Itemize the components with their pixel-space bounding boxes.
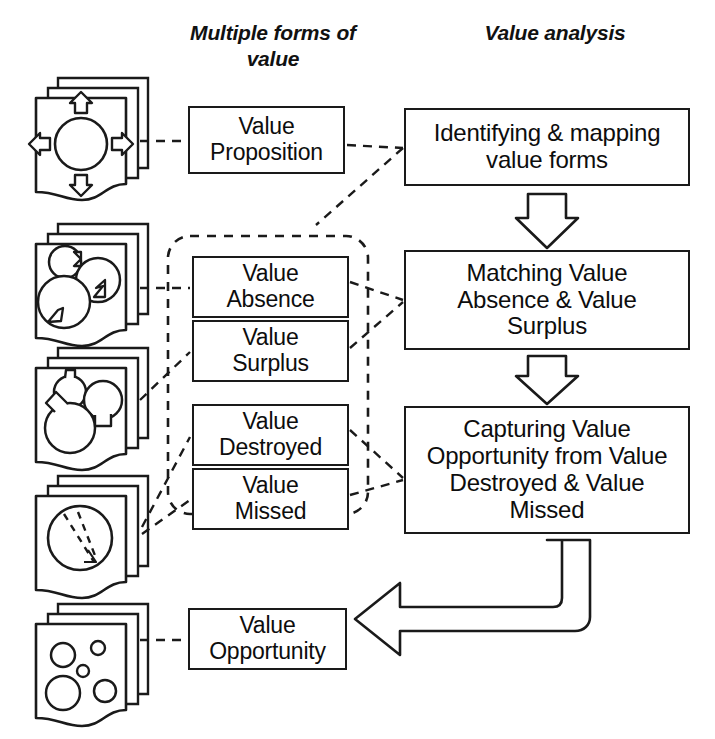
block-arrow-matching-to-capturing [516, 356, 578, 404]
node-value-destroyed[interactable]: Value Destroyed [192, 404, 349, 466]
node-identifying-mapping-label: Identifying & mapping value forms [434, 120, 661, 174]
node-value-surplus-label: Value Surplus [232, 325, 309, 377]
node-capturing-label: Capturing Value Opportunity from Value D… [427, 416, 668, 524]
connector-group [140, 141, 403, 640]
node-capturing-value-opportunity[interactable]: Capturing Value Opportunity from Value D… [404, 406, 690, 534]
icon-scattered-circles [36, 604, 148, 726]
diagram-canvas: Multiple forms of value Value analysis [0, 0, 715, 739]
connector-absence-matching [350, 282, 403, 300]
node-value-missed-label: Value Missed [235, 473, 307, 525]
node-identifying-mapping-value-forms[interactable]: Identifying & mapping value forms [404, 108, 690, 186]
node-value-destroyed-label: Value Destroyed [219, 409, 322, 461]
icon-dashed-split-circle [36, 476, 148, 598]
block-arrow-capturing-to-opportunity [355, 540, 590, 655]
connector-surplus-matching [350, 302, 403, 348]
node-value-opportunity-label: Value Opportunity [209, 613, 326, 665]
connector-proposition-identify [347, 145, 403, 148]
node-value-proposition-label: Value Proposition [210, 114, 323, 166]
node-value-surplus[interactable]: Value Surplus [192, 320, 349, 382]
column-title-value-analysis: Value analysis [430, 20, 680, 46]
connector-missed-capturing [350, 480, 403, 495]
node-value-absence[interactable]: Value Absence [192, 256, 349, 318]
node-value-missed[interactable]: Value Missed [192, 468, 349, 530]
connector-destroyed-capturing [350, 430, 403, 478]
column-title-multiple-forms-of-value: Multiple forms of value [178, 20, 368, 71]
node-value-opportunity[interactable]: Value Opportunity [188, 608, 347, 670]
icon-four-arrows-circle [29, 78, 148, 200]
icon-bulging-circles [36, 348, 148, 470]
icon-notched-circles [36, 224, 148, 346]
node-value-absence-label: Value Absence [226, 261, 314, 313]
node-matching-label: Matching Value Absence & Value Surplus [457, 260, 636, 341]
node-matching-value-absence-surplus[interactable]: Matching Value Absence & Value Surplus [404, 250, 690, 350]
node-value-proposition[interactable]: Value Proposition [188, 106, 345, 174]
block-arrow-identify-to-matching [516, 194, 578, 248]
